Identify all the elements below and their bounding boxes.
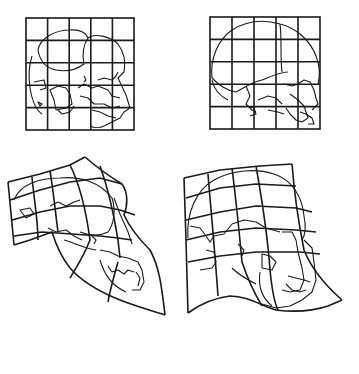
panel-human-infant [210, 17, 320, 129]
skull-transformation-figure [0, 0, 359, 374]
square-grid-left [26, 18, 134, 130]
panel-human-adult [184, 164, 342, 313]
skull-outline-human-infant [212, 22, 320, 124]
skull-outline-chimp-juvenile [29, 30, 130, 128]
panel-chimp-juvenile [26, 18, 134, 130]
square-grid-right [210, 17, 320, 129]
panel-chimp-adult [8, 157, 165, 315]
figure-drawing [0, 0, 359, 374]
